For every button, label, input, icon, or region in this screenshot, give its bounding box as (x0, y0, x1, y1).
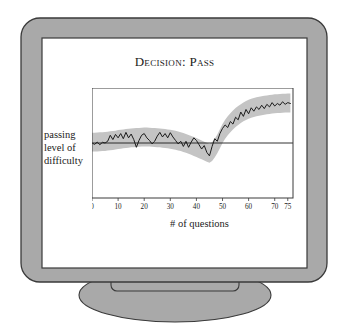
x-tick-label: 70 (271, 203, 279, 211)
screen-content: Decision: Pass passing level of difficul… (42, 38, 307, 268)
line-chart: 01020304050607075 (92, 88, 304, 213)
x-axis-ticks: 01020304050607075 (92, 198, 292, 211)
x-tick-label: 60 (245, 203, 253, 211)
x-tick-label: 20 (141, 203, 149, 211)
plot-band-layer (92, 94, 290, 163)
x-tick-label: 10 (115, 203, 123, 211)
x-tick-label: 50 (219, 203, 227, 211)
x-tick-label: 0 (92, 203, 94, 211)
x-tick-label: 30 (167, 203, 175, 211)
x-tick-label: 75 (284, 203, 292, 211)
chart-title: Decision: Pass (42, 54, 307, 70)
x-tick-label: 40 (193, 203, 201, 211)
x-axis-label: # of questions (99, 218, 300, 229)
confidence-band (92, 94, 290, 163)
screenshot-root: Decision: Pass passing level of difficul… (0, 0, 350, 329)
